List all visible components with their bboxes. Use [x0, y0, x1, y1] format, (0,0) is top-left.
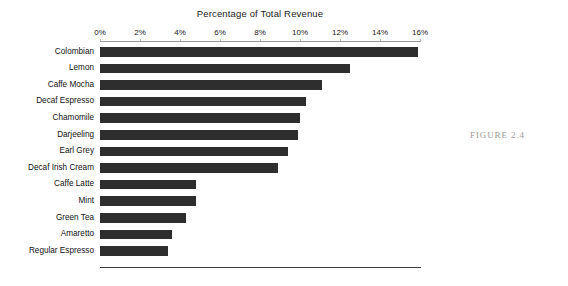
bar-row: Green Tea — [0, 211, 430, 228]
x-axis-line — [100, 41, 421, 42]
bar — [100, 64, 350, 74]
figure-container: Percentage of Total Revenue 0%2%4%6%8%10… — [0, 0, 568, 286]
bar — [100, 47, 418, 57]
x-axis-tick-label: 6% — [214, 28, 226, 37]
x-axis-tick-label: 14% — [372, 28, 388, 37]
bar — [100, 180, 196, 190]
bar-row: Decaf Irish Cream — [0, 161, 430, 178]
x-axis-tick-label: 10% — [292, 28, 308, 37]
category-label: Decaf Espresso — [36, 96, 94, 105]
category-label: Earl Grey — [59, 146, 94, 155]
bar — [100, 80, 322, 90]
bar — [100, 246, 168, 256]
bar-row: Earl Grey — [0, 145, 430, 162]
bar — [100, 163, 278, 173]
bar-row: Colombian — [0, 45, 430, 62]
category-label: Regular Espresso — [29, 246, 94, 255]
bar-row: Chamomile — [0, 111, 430, 128]
x-axis-tick-label: 0% — [94, 28, 106, 37]
x-axis-tick-label: 2% — [134, 28, 146, 37]
bar — [100, 97, 306, 107]
bar-row: Caffe Latte — [0, 178, 430, 195]
x-axis: 0%2%4%6%8%10%12%14%16% — [100, 28, 420, 42]
category-label: Caffe Latte — [54, 179, 94, 188]
bar-row: Caffe Mocha — [0, 78, 430, 95]
x-axis-tick-label: 8% — [254, 28, 266, 37]
bar — [100, 230, 172, 240]
category-label: Chamomile — [53, 113, 94, 122]
category-label: Lemon — [69, 63, 94, 72]
category-label: Caffe Mocha — [48, 80, 94, 89]
figure-caption: FIGURE 2.4 — [470, 130, 525, 140]
bar-row: Regular Espresso — [0, 244, 430, 261]
plot-area: ColombianLemonCaffe MochaDecaf EspressoC… — [0, 45, 430, 267]
bar — [100, 130, 298, 140]
category-label: Green Tea — [56, 213, 94, 222]
chart-title: Percentage of Total Revenue — [100, 8, 420, 19]
x-axis-tick-label: 12% — [332, 28, 348, 37]
category-label: Colombian — [55, 47, 94, 56]
bar-row: Decaf Espresso — [0, 95, 430, 112]
bar-row: Lemon — [0, 62, 430, 79]
bar — [100, 147, 288, 157]
category-label: Mint — [79, 196, 94, 205]
bar-row: Mint — [0, 194, 430, 211]
x-axis-tick-label: 4% — [174, 28, 186, 37]
bar — [100, 213, 186, 223]
category-label: Decaf Irish Cream — [28, 163, 94, 172]
bar — [100, 196, 196, 206]
category-label: Amaretto — [61, 229, 94, 238]
bar — [100, 113, 300, 123]
chart-baseline — [100, 267, 421, 268]
bar-row: Darjeeling — [0, 128, 430, 145]
category-label: Darjeeling — [57, 130, 94, 139]
bar-row: Amaretto — [0, 228, 430, 245]
x-axis-tick-label: 16% — [412, 28, 428, 37]
